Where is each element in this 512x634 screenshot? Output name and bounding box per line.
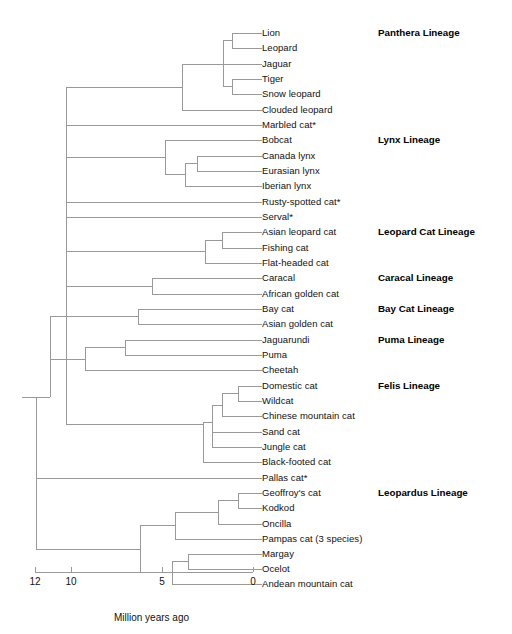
taxon-label: Pampas cat (3 species) [262, 534, 362, 544]
taxon-label: Snow leopard [262, 89, 321, 99]
lineage-label: Leopard Cat Lineage [378, 227, 475, 237]
taxon-label: Chinese mountain cat [262, 411, 355, 421]
tree-branch-lines [22, 33, 262, 584]
taxon-label: Leopard [262, 43, 297, 53]
taxon-label: Lion [262, 28, 280, 38]
taxon-label: Bobcat [262, 135, 292, 145]
taxon-label: Pallas cat* [262, 473, 307, 483]
taxon-label: Jungle cat [262, 442, 306, 452]
taxon-label: African golden cat [262, 289, 339, 299]
axis-tick-label: 0 [233, 577, 273, 587]
taxon-label: Iberian lynx [262, 181, 311, 191]
lineage-label: Leopardus Lineage [378, 488, 468, 498]
taxon-label: Geoffroy's cat [262, 488, 321, 498]
taxon-label: Eurasian lynx [262, 166, 320, 176]
lineage-label: Puma Lineage [378, 335, 444, 345]
taxon-label: Sand cat [262, 427, 300, 437]
taxon-label: Jaguarundi [262, 335, 310, 345]
lineage-label: Lynx Lineage [378, 135, 440, 145]
taxon-label: Rusty-spotted cat* [262, 197, 341, 207]
taxon-label: Kodkod [262, 503, 295, 513]
taxon-label: Black-footed cat [262, 457, 331, 467]
taxon-label: Clouded leopard [262, 105, 332, 115]
lineage-label: Panthera Lineage [378, 28, 460, 38]
axis-tick-label: 12 [15, 577, 55, 587]
taxon-label: Canada lynx [262, 151, 315, 161]
lineage-label: Caracal Lineage [378, 273, 453, 283]
taxon-label: Jaguar [262, 59, 291, 69]
axis-tick-label: 5 [142, 577, 182, 587]
phylogenetic-tree-svg [0, 0, 512, 634]
taxon-label: Oncilla [262, 519, 291, 529]
taxon-label: Ocelot [262, 564, 290, 574]
taxon-label: Andean mountain cat [262, 579, 353, 589]
taxon-label: Margay [262, 549, 294, 559]
taxon-label: Marbled cat* [262, 120, 316, 130]
taxon-label: Wildcat [262, 396, 294, 406]
taxon-label: Domestic cat [262, 381, 318, 391]
taxon-label: Cheetah [262, 365, 298, 375]
taxon-label: Serval* [262, 212, 293, 222]
taxon-label: Asian golden cat [262, 319, 333, 329]
taxon-label: Caracal [262, 273, 295, 283]
taxon-label: Asian leopard cat [262, 227, 336, 237]
taxon-label: Fishing cat [262, 243, 309, 253]
taxon-label: Bay cat [262, 304, 294, 314]
figure-canvas: LionLeopardJaguarTigerSnow leopardCloude… [0, 0, 512, 634]
taxon-label: Puma [262, 350, 287, 360]
taxon-label: Flat-headed cat [262, 258, 329, 268]
axis-tick-label: 10 [51, 577, 91, 587]
lineage-label: Bay Cat Lineage [378, 304, 454, 314]
axis-title: Million years ago [114, 613, 189, 623]
taxon-label: Tiger [262, 74, 284, 84]
lineage-label: Felis Lineage [378, 381, 440, 391]
